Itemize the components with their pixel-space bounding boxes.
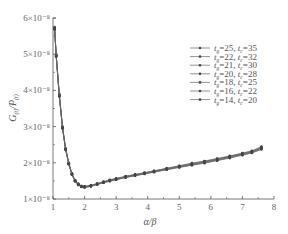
data-point [241, 154, 244, 157]
data-point [67, 163, 70, 166]
legend-entry: tg=14, tc=20 [214, 95, 257, 106]
data-point [55, 55, 58, 58]
data-point [58, 95, 61, 98]
x-tick-label: 5 [177, 202, 182, 212]
data-point [71, 173, 74, 176]
data-point [53, 28, 56, 31]
data-point [80, 186, 83, 189]
y-tick-label: 2×10⁻⁸ [23, 158, 50, 168]
data-point [102, 181, 105, 184]
y-axis-label: G(t)/P(t) [7, 94, 20, 121]
x-tick-label: 7 [240, 202, 245, 212]
legend-marker [199, 81, 202, 84]
data-point [216, 159, 219, 162]
data-point [64, 148, 67, 151]
x-tick-label: 1 [51, 202, 56, 212]
data-point [134, 175, 137, 178]
data-point [260, 148, 263, 151]
data-point [115, 179, 118, 182]
chart: 123456781×10⁻⁸2×10⁻⁸3×10⁻⁸4×10⁻⁸5×10⁻⁸6×… [0, 0, 288, 234]
y-tick-label: 5×10⁻⁸ [23, 49, 50, 59]
x-tick-label: 6 [209, 202, 214, 212]
data-point [178, 166, 181, 169]
data-point [96, 183, 99, 186]
data-point [83, 186, 86, 189]
legend-marker [199, 47, 202, 50]
x-tick-label: 8 [272, 202, 277, 212]
x-tick-label: 2 [82, 202, 87, 212]
x-axis-label: α/β [143, 216, 156, 227]
data-point [124, 176, 127, 179]
data-point [203, 162, 206, 165]
legend: tg=25, tc=35tg=22, tc=32tg=21, tc=30tg=2… [190, 43, 257, 106]
data-point [61, 127, 64, 130]
data-point [191, 164, 194, 167]
y-tick-label: 6×10⁻⁸ [23, 13, 50, 23]
x-tick-label: 4 [145, 202, 150, 212]
legend-marker [199, 90, 202, 93]
data-point [143, 173, 146, 176]
data-point [251, 152, 254, 155]
legend-marker [199, 55, 202, 58]
data-point [74, 180, 77, 183]
legend-marker [199, 73, 202, 76]
legend-marker [199, 64, 202, 67]
data-point [165, 168, 168, 171]
data-point [90, 185, 93, 188]
data-point [229, 157, 232, 160]
y-tick-label: 3×10⁻⁸ [23, 122, 50, 132]
legend-marker [199, 98, 202, 101]
data-point [109, 180, 112, 183]
x-tick-label: 3 [114, 202, 119, 212]
data-point [77, 184, 80, 187]
y-tick-label: 4×10⁻⁸ [23, 85, 50, 95]
y-tick-label: 1×10⁻⁸ [23, 194, 50, 204]
data-point [153, 171, 156, 174]
